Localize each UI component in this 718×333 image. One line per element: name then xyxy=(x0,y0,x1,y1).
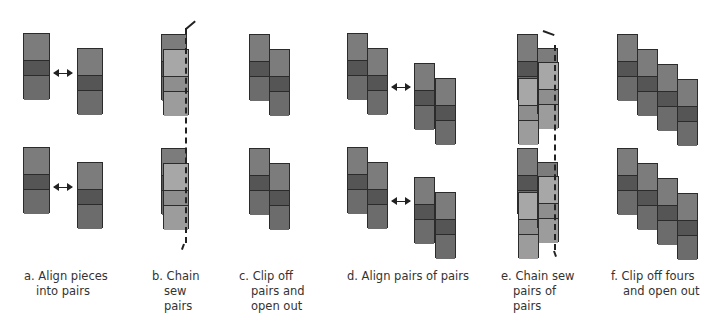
step-f-piece xyxy=(657,64,678,130)
strip-segment xyxy=(250,175,269,190)
strip-segment xyxy=(250,190,269,215)
strip-segment xyxy=(638,91,657,116)
strip-segment xyxy=(518,149,537,175)
strip-segment xyxy=(348,75,367,100)
seam-line xyxy=(185,28,187,243)
strip-segment xyxy=(270,190,289,205)
caption-e-line-1: e. Chain sew xyxy=(501,269,574,284)
strip-segment xyxy=(618,76,637,101)
strip-segment xyxy=(436,120,455,145)
strip-segment xyxy=(250,35,269,61)
strip-segment xyxy=(78,163,102,189)
caption-d-line-1: d. Align pairs of pairs xyxy=(347,269,469,284)
strip-segment xyxy=(658,91,677,106)
strip-segment xyxy=(368,163,387,189)
strip-segment xyxy=(436,79,455,105)
strip-segment xyxy=(24,60,49,75)
strip-segment xyxy=(24,174,49,189)
strip-segment xyxy=(368,90,387,115)
strip-segment xyxy=(618,149,637,175)
strip-segment xyxy=(78,189,102,204)
strip-segment xyxy=(638,190,657,205)
step-d-piece xyxy=(414,63,435,129)
strip-segment xyxy=(24,34,49,60)
strip-segment xyxy=(658,220,677,245)
caption-f-line-2: and open out xyxy=(611,284,699,299)
caption-b-line-3: pairs xyxy=(152,299,199,314)
step-d-piece xyxy=(367,162,388,228)
caption-b-line-1: b. Chain xyxy=(152,269,199,284)
caption-e: e. Chain sew pairs of pairs xyxy=(501,269,574,314)
strip-segment xyxy=(250,76,269,101)
strip-segment xyxy=(415,178,434,204)
step-a-piece xyxy=(23,147,50,213)
step-f-piece xyxy=(637,49,658,115)
strip-segment xyxy=(78,90,102,115)
strip-segment xyxy=(270,50,289,76)
seam-line xyxy=(554,45,556,250)
strip-segment xyxy=(519,234,538,259)
strip-segment xyxy=(24,148,49,174)
seam-line xyxy=(185,21,195,30)
caption-c-line-1: c. Clip off xyxy=(239,269,305,284)
seam-line xyxy=(181,244,185,250)
strip-segment xyxy=(658,179,677,205)
strip-segment xyxy=(436,193,455,219)
strip-segment xyxy=(436,234,455,259)
double-arrow-icon xyxy=(54,73,72,74)
step-f-piece xyxy=(617,34,638,100)
strip-segment xyxy=(519,219,538,234)
strip-segment xyxy=(415,219,434,244)
caption-e-line-2: pairs of xyxy=(501,284,574,299)
strip-segment xyxy=(348,148,367,174)
strip-segment xyxy=(519,79,538,105)
strip-segment xyxy=(270,164,289,190)
strip-segment xyxy=(519,193,538,219)
strip-segment xyxy=(415,204,434,219)
strip-segment xyxy=(678,121,697,146)
strip-segment xyxy=(368,75,387,90)
strip-segment xyxy=(519,105,538,120)
strip-segment xyxy=(415,105,434,130)
strip-segment xyxy=(678,220,697,235)
strip-segment xyxy=(678,235,697,260)
step-d-piece xyxy=(435,78,456,144)
strip-segment xyxy=(78,75,102,90)
strip-segment xyxy=(638,164,657,190)
strip-segment xyxy=(348,174,367,189)
strip-segment xyxy=(518,61,537,76)
strip-segment xyxy=(658,65,677,91)
strip-segment xyxy=(678,106,697,121)
caption-e-line-3: pairs xyxy=(501,299,574,314)
step-a-piece xyxy=(77,162,103,228)
caption-c-line-2: pairs and xyxy=(239,284,305,299)
strip-segment xyxy=(618,35,637,61)
strip-segment xyxy=(436,105,455,120)
caption-b-line-2: sew xyxy=(152,284,199,299)
strip-segment xyxy=(368,189,387,204)
strip-segment xyxy=(638,76,657,91)
strip-segment xyxy=(618,190,637,215)
strip-segment xyxy=(348,60,367,75)
caption-d: d. Align pairs of pairs xyxy=(347,269,469,284)
caption-a: a. Align pieces into pairs xyxy=(24,269,108,299)
strip-segment xyxy=(270,205,289,230)
strip-segment xyxy=(415,90,434,105)
step-c-piece xyxy=(269,49,290,115)
strip-segment xyxy=(436,219,455,234)
caption-c: c. Clip off pairs and open out xyxy=(239,269,305,314)
strip-segment xyxy=(415,64,434,90)
strip-segment xyxy=(678,80,697,106)
step-d-piece xyxy=(367,48,388,114)
seam-line xyxy=(553,251,557,257)
step-e-front-piece xyxy=(518,78,539,144)
double-arrow-icon xyxy=(392,87,410,88)
strip-segment xyxy=(678,194,697,220)
strip-segment xyxy=(519,120,538,145)
step-f-piece xyxy=(677,79,698,145)
step-f-piece xyxy=(637,163,658,229)
step-d-piece xyxy=(347,147,368,213)
step-e-front-piece xyxy=(518,192,539,258)
caption-c-line-3: open out xyxy=(239,299,305,314)
strip-segment xyxy=(348,34,367,60)
